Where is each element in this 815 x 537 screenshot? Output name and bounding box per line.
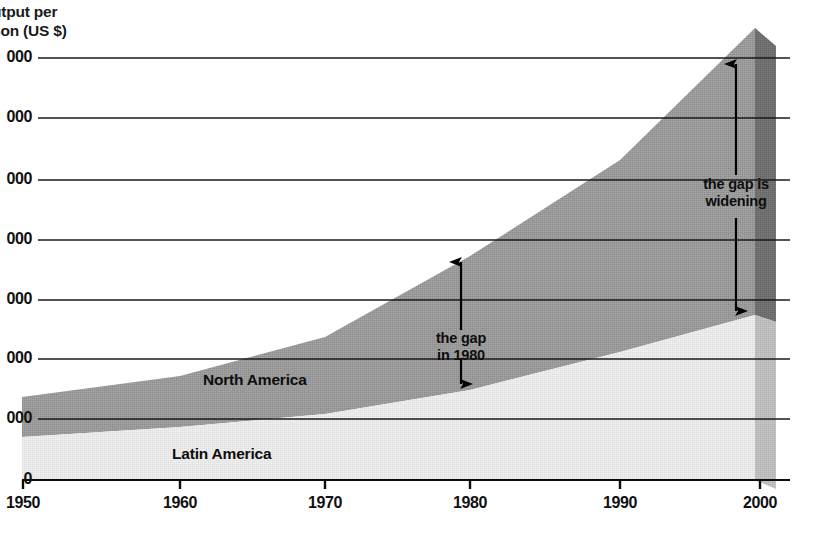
x-axis-tick-1980: 1980 xyxy=(453,494,487,512)
series-label-north-america: North America xyxy=(203,371,307,389)
y-axis-title-line1: utput per xyxy=(0,3,57,20)
y-axis-tick-6000: 000 xyxy=(0,290,32,308)
y-axis-tick-12000: 000 xyxy=(0,108,32,126)
y-axis-title: Output per person (US $)utput person (US… xyxy=(0,2,162,40)
y-axis-tick-0: 0 xyxy=(0,470,32,488)
x-axis-ticks xyxy=(23,480,760,489)
x-axis-tick-1950: 1950 xyxy=(6,494,40,512)
output-per-person-area-chart xyxy=(0,0,815,537)
side-face-latin-america xyxy=(755,315,776,489)
y-axis-tick-8000: 000 xyxy=(0,230,32,248)
y-axis-tick-2000: 000 xyxy=(0,409,32,427)
x-axis-tick-1960: 1960 xyxy=(163,494,197,512)
y-axis-tick-14000: 000 xyxy=(0,48,32,66)
chart-page: Output per person (US $)utput person (US… xyxy=(0,0,815,537)
x-axis-tick-1970: 1970 xyxy=(308,494,342,512)
y-axis-title-line2: son (US $) xyxy=(0,22,67,39)
y-axis-tick-10000: 000 xyxy=(0,170,32,188)
annotation-gap-widening: the gap is widening xyxy=(678,176,794,210)
annotation-gap-1980: the gap in 1980 xyxy=(400,330,522,364)
y-axis-tick-4000: 000 xyxy=(0,349,32,367)
x-axis-tick-2000: 2000 xyxy=(743,494,777,512)
series-label-latin-america: Latin America xyxy=(172,445,271,463)
side-face-north-america xyxy=(755,28,776,322)
x-axis-tick-1990: 1990 xyxy=(603,494,637,512)
